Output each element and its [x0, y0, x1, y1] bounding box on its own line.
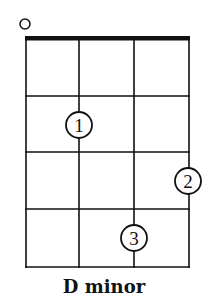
nut	[25, 36, 190, 41]
open-string-marker-icon	[20, 19, 30, 29]
finger-dot-1: 1	[66, 112, 92, 138]
strings	[26, 38, 189, 268]
finger-number-1: 1	[74, 115, 84, 136]
finger-number-2: 2	[183, 171, 193, 192]
chord-name-label: D minor	[0, 277, 208, 297]
chord-diagram: 1 2 3	[0, 0, 208, 306]
finger-dot-3: 3	[121, 225, 147, 251]
finger-dot-2: 2	[175, 168, 201, 194]
finger-number-3: 3	[129, 228, 139, 249]
frets	[25, 96, 190, 267]
